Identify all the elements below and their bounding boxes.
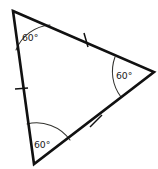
tick-mark-left-side: [15, 88, 28, 89]
angle-label-top-left: 60°: [22, 32, 38, 43]
angle-label-right: 60°: [116, 70, 132, 81]
triangle-diagram: 60° 60° 60°: [0, 0, 158, 169]
angle-label-bottom: 60°: [34, 139, 50, 150]
geometry-figure: 60° 60° 60°: [0, 0, 158, 169]
